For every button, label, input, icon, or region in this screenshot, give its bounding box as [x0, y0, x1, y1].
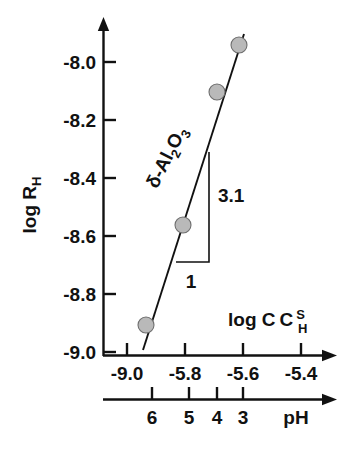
y-tick-label: -8.4: [63, 168, 96, 189]
data-point: [231, 37, 247, 53]
y-axis-title: log RH: [19, 177, 44, 234]
x-tick-label: -5.4: [285, 363, 318, 384]
y-axis-arrowhead: [98, 17, 109, 31]
y-axis-group: -8.0 -8.2 -8.4 -8.6 -8.8 -9.0 log RH: [19, 17, 116, 363]
x-tick-label: -5.8: [169, 363, 202, 384]
y-tick-label: -8.0: [63, 52, 96, 73]
y-tick-label: -8.2: [63, 110, 96, 131]
data-point: [175, 217, 191, 233]
ph-axis-title: pH: [283, 407, 308, 428]
data-point: [138, 317, 154, 333]
x-tick-label: -9.0: [111, 363, 144, 384]
y-tick-label: -8.6: [63, 226, 96, 247]
ph-axis-group: 6 5 4 3 pH: [103, 387, 337, 428]
y-axis-title-main: log R: [19, 186, 40, 234]
x-axis-arrowhead: [322, 350, 337, 361]
x-axis-title: log CCSH: [228, 307, 307, 336]
ph-tick-label: 6: [147, 407, 158, 428]
slope-triangle: [176, 152, 209, 262]
x-tick-label: -5.6: [227, 363, 260, 384]
y-axis-title-sub: H: [29, 177, 44, 186]
series-label: δ-Al2O3: [142, 123, 194, 193]
x-axis-title-main: log C: [228, 309, 276, 330]
slope-rise-label: 3.1: [218, 185, 245, 206]
x-axis-title-sub: H: [298, 321, 307, 336]
ph-tick-label: 3: [238, 407, 249, 428]
x-axis-title-sup: S: [296, 307, 305, 322]
x-axis-title-c: C: [280, 309, 294, 330]
ph-tick-label: 4: [212, 407, 223, 428]
ph-tick-label: 5: [184, 407, 195, 428]
chart-figure: -8.0 -8.2 -8.4 -8.6 -8.8 -9.0 log RH -9.: [0, 0, 357, 454]
y-axis-title-group: log RH: [19, 177, 44, 234]
data-point: [209, 84, 225, 100]
slope-run-label: 1: [186, 271, 197, 292]
y-tick-label: -9.0: [63, 342, 96, 363]
chart-canvas: -8.0 -8.2 -8.4 -8.6 -8.8 -9.0 log RH -9.: [0, 0, 357, 454]
x-axis-group: -9.0 -5.8 -5.6 -5.4 log CCSH: [103, 307, 337, 384]
ph-axis-arrowhead: [322, 394, 337, 405]
series-label-group: δ-Al2O3: [142, 123, 194, 193]
y-tick-label: -8.8: [63, 284, 96, 305]
